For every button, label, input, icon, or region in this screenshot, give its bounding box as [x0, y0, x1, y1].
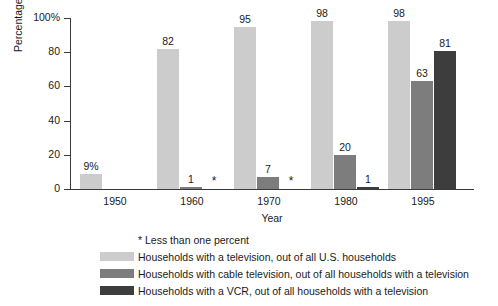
x-axis-line: [70, 189, 474, 190]
y-axis-line: [70, 18, 71, 190]
bar-value-1995-television: 98: [393, 7, 405, 19]
x-tick-label-1980: 1980: [311, 195, 381, 208]
legend-label-television: Households with a television, out of all…: [138, 250, 396, 264]
y-tick-label-40: 40: [48, 114, 60, 127]
legend-item-vcr: Households with a VCR, out of all househ…: [100, 282, 492, 299]
bar-value-1970-television: 95: [239, 13, 251, 25]
bar-value-1995-vcr: 81: [439, 37, 451, 49]
y-tick-80: 80: [64, 52, 70, 53]
plot-area: 100% 80 60 40 20 0 9% 1950: [70, 18, 474, 190]
bar-group-1960: 82 1 * 1960: [157, 18, 227, 189]
bar-1970-cable[interactable]: 7: [257, 177, 279, 189]
legend-swatch-vcr-icon: [100, 286, 134, 295]
y-tick-60: 60: [64, 86, 70, 87]
legend-label-vcr: Households with a VCR, out of all househ…: [138, 284, 428, 298]
bar-value-1970-cable: 7: [265, 163, 271, 175]
legend-item-television: Households with a television, out of all…: [100, 248, 492, 265]
asterisk-1970-vcr: *: [289, 177, 294, 185]
y-tick-label-60: 60: [48, 79, 60, 92]
legend-footnote: * Less than one percent: [138, 232, 492, 248]
y-tick-label-100: 100%: [33, 11, 60, 24]
bar-1995-vcr[interactable]: 81: [434, 51, 456, 190]
bar-value-1980-television: 98: [316, 7, 328, 19]
x-tick-label-1995: 1995: [388, 195, 458, 208]
bar-value-1980-cable: 20: [339, 141, 351, 153]
bar-group-1980: 98 20 1 1980: [311, 18, 381, 189]
bar-value-1980-vcr: 1: [365, 173, 371, 185]
bar-value-1960-television: 82: [162, 35, 174, 47]
bar-1995-cable[interactable]: 63: [411, 81, 433, 189]
legend-item-cable: Households with cable television, out of…: [100, 265, 492, 282]
bar-value-1960-cable: 1: [188, 173, 194, 185]
bar-group-1995: 98 63 81 1995: [388, 18, 458, 189]
bar-1980-television[interactable]: 98: [311, 21, 333, 189]
chart-figure: Percentage 100% 80 60 40 20 0 9%: [0, 0, 498, 306]
bar-group-1970: 95 7 * 1970: [234, 18, 304, 189]
y-tick-100: 100%: [64, 18, 70, 19]
y-tick-40: 40: [64, 121, 70, 122]
x-tick-label-1970: 1970: [234, 195, 304, 208]
bar-1970-television[interactable]: 95: [234, 27, 256, 190]
bar-1995-television[interactable]: 98: [388, 21, 410, 189]
legend-label-cable: Households with cable television, out of…: [138, 267, 469, 281]
bar-1960-cable[interactable]: 1: [180, 187, 202, 189]
bar-value-1950-television: 9%: [83, 160, 98, 172]
y-tick-label-0: 0: [54, 182, 60, 195]
legend-swatch-cable-icon: [100, 269, 134, 278]
bar-1950-television[interactable]: 9%: [80, 174, 102, 189]
bar-1980-cable[interactable]: 20: [334, 155, 356, 189]
y-tick-20: 20: [64, 155, 70, 156]
chart-legend: * Less than one percent Households with …: [100, 232, 492, 299]
x-tick-label-1960: 1960: [157, 195, 227, 208]
bar-1980-vcr[interactable]: 1: [357, 187, 379, 190]
bar-slot-1970-vcr: *: [280, 175, 302, 189]
y-axis-title: Percentage: [12, 0, 24, 52]
y-tick-label-20: 20: [48, 148, 60, 161]
legend-swatch-television-icon: [100, 252, 134, 261]
x-tick-label-1950: 1950: [80, 195, 150, 208]
bar-group-1950: 9% 1950: [80, 18, 150, 189]
y-tick-0: 0: [64, 189, 70, 190]
bar-1960-television[interactable]: 82: [157, 49, 179, 189]
y-tick-label-80: 80: [48, 45, 60, 58]
bar-slot-1960-vcr: *: [203, 175, 225, 189]
asterisk-1960-vcr: *: [212, 177, 217, 185]
x-axis-title: Year: [70, 212, 474, 224]
bar-value-1995-cable: 63: [416, 67, 428, 79]
